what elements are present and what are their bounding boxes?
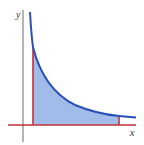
x-axis-label: x (129, 127, 135, 138)
y-axis-label: y (15, 9, 21, 20)
area-under-curve-diagram: y x (0, 0, 144, 145)
